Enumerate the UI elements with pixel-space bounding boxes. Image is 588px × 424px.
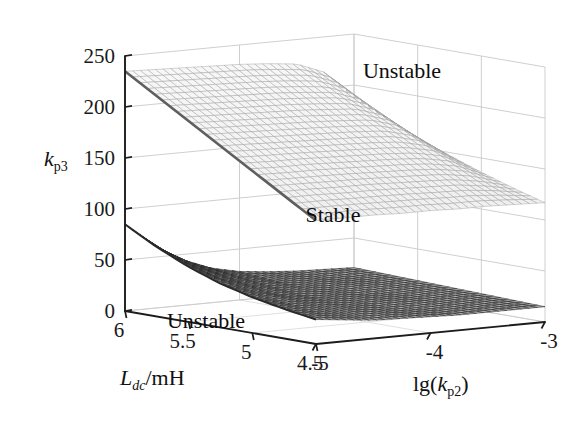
unstable-upper: Unstable [363, 58, 441, 83]
x-axis-title-sub: dc [132, 378, 146, 393]
y-tick-label: -4 [426, 340, 444, 364]
y-tick-label: -5 [311, 351, 329, 375]
stable-middle: Stable [306, 202, 361, 227]
z-tick-label: 50 [94, 248, 115, 272]
y-axis-title-post: ) [461, 371, 468, 396]
surface-plot-figure: 25020015010050065.554.5-5-4-3 kp3 Ldc/mH… [0, 0, 588, 424]
x-axis-title-main: L [119, 365, 132, 390]
z-tick-label: 200 [84, 95, 116, 119]
x-axis-title: Ldc/mH [119, 365, 185, 393]
x-tick-label: 5 [241, 340, 252, 364]
y-axis-title-sub: p2 [447, 384, 461, 399]
y-tick-label: -3 [540, 329, 558, 353]
unstable-lower: Unstable [167, 308, 245, 333]
z-tick-label: 100 [84, 197, 116, 221]
x-tick-label: 6 [114, 318, 125, 342]
z-tick-label: 150 [84, 146, 116, 170]
x-axis-title-tail: /mH [145, 365, 184, 390]
z-tick-label: 250 [84, 44, 116, 68]
z-axis-title-sub: p3 [54, 159, 68, 174]
y-axis-title-pre: lg( [413, 371, 437, 396]
